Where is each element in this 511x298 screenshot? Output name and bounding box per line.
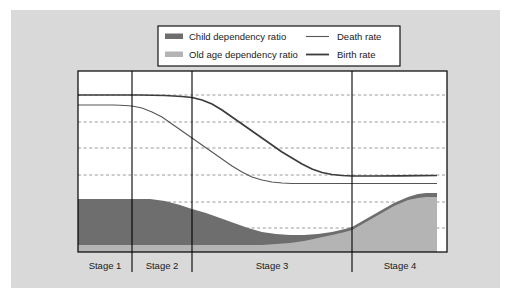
demographic-transition-chart: Stage 1 Stage 2 Stage 3 Stage 4 Child de…: [0, 0, 511, 298]
chart-legend: Child dependency ratio Old age dependenc…: [158, 26, 400, 66]
figure-container: Stage 1 Stage 2 Stage 3 Stage 4 Child de…: [0, 0, 511, 298]
legend-label-child-dependency-ratio: Child dependency ratio: [189, 31, 286, 42]
stage-label-4: Stage 4: [384, 260, 417, 271]
plot-area: [78, 71, 447, 272]
legend-swatch-old-age-dependency-ratio: [165, 52, 183, 58]
legend-swatch-child-dependency-ratio: [165, 34, 183, 40]
stage-label-2: Stage 2: [146, 260, 179, 271]
legend-label-birth-rate: Birth rate: [337, 49, 376, 60]
stage-label-1: Stage 1: [89, 260, 122, 271]
legend-label-death-rate: Death rate: [337, 31, 381, 42]
stage-label-band: Stage 1 Stage 2 Stage 3 Stage 4: [89, 260, 417, 271]
stage-label-3: Stage 3: [256, 260, 289, 271]
legend-label-old-age-dependency-ratio: Old age dependency ratio: [189, 49, 298, 60]
